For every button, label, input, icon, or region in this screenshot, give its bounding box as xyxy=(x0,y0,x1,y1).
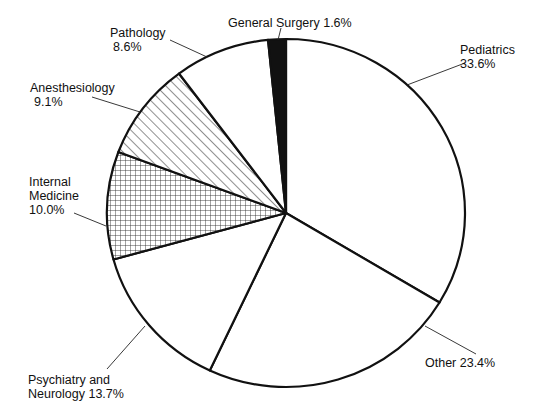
label-anesthesiology: Anesthesiology9.1% xyxy=(30,81,116,109)
label-pediatrics: Pediatrics33.6% xyxy=(460,43,515,71)
pie-slices xyxy=(107,39,465,387)
leader-anesthesiology xyxy=(92,97,140,112)
leader-internal-medicine xyxy=(74,213,106,226)
pie-chart: Pediatrics33.6% Other 23.4% Psychiatry a… xyxy=(0,0,542,418)
label-other: Other 23.4% xyxy=(425,356,495,370)
label-general-surgery: General Surgery 1.6% xyxy=(228,16,352,30)
label-internal-medicine: InternalMedicine10.0% xyxy=(29,175,79,217)
label-psychiatry: Psychiatry andNeurology 13.7% xyxy=(28,373,124,401)
leader-pediatrics xyxy=(407,63,465,85)
leader-pathology xyxy=(170,40,207,57)
leader-other xyxy=(425,326,476,354)
label-pathology: Pathology8.6% xyxy=(110,26,166,54)
leader-psychiatry xyxy=(107,326,145,369)
